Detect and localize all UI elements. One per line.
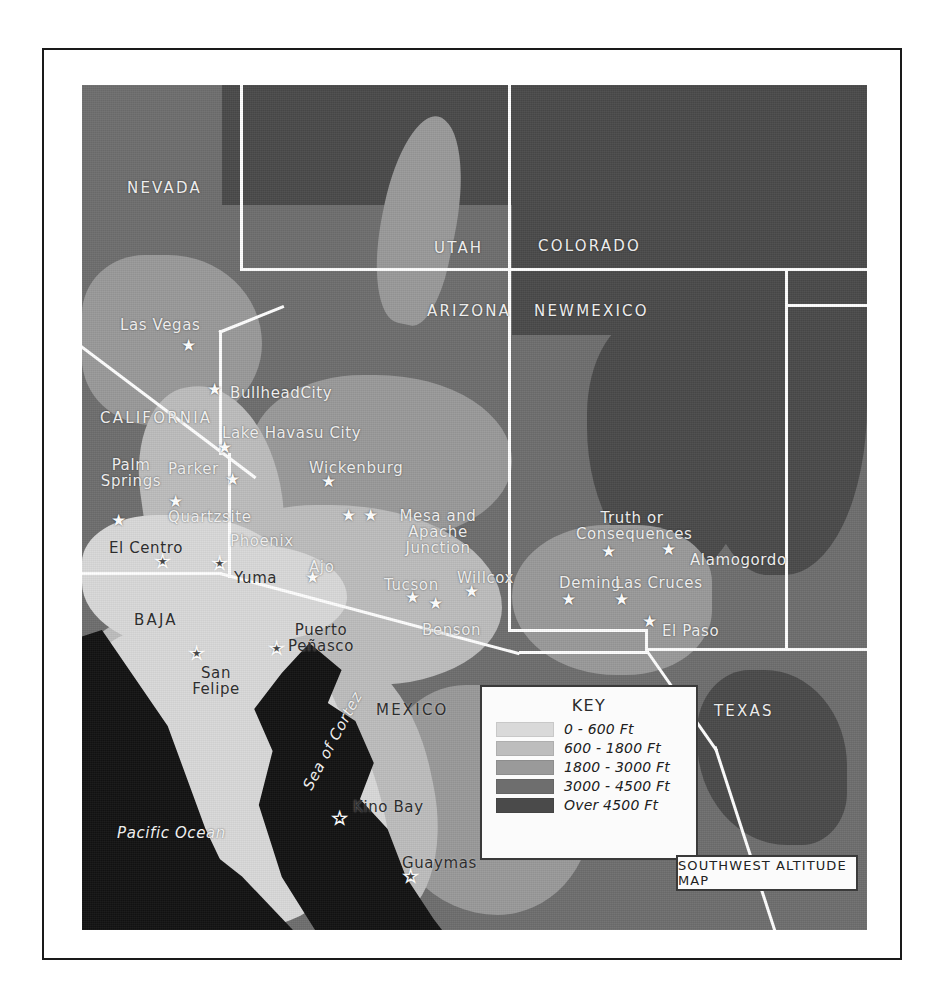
legend-row: Over 4500 Ft	[496, 797, 696, 813]
border-california-mexico	[82, 572, 222, 575]
map-page: NEVADAUTAHCOLORADOARIZONANEWMEXICOCALIFO…	[0, 0, 946, 1005]
legend-label: 3000 - 4500 Ft	[564, 778, 670, 794]
city-label-puerto-pe-asco: Puerto Peñasco	[282, 622, 360, 654]
city-label-phoenix: Phoenix	[230, 533, 294, 549]
city-label-alamogordo: Alamogordo	[690, 552, 787, 568]
legend-swatch	[496, 798, 554, 813]
water-label-pacific-ocean: Pacific Ocean	[117, 825, 226, 841]
altitude-map-image: NEVADAUTAHCOLORADOARIZONANEWMEXICOCALIFO…	[82, 85, 867, 930]
city-label-parker: Parker	[168, 461, 219, 477]
state-label-texas: TEXAS	[714, 703, 774, 719]
border-utah-arizona	[240, 268, 510, 271]
state-label-mexico: MEXICO	[376, 702, 449, 718]
legend-key-box: KEY 0 - 600 Ft600 - 1800 Ft1800 - 3000 F…	[480, 685, 698, 860]
city-label-el-paso: El Paso	[662, 623, 719, 639]
terrain-highland-utah-north	[222, 85, 522, 205]
state-label-utah: UTAH	[434, 240, 483, 256]
city-label-lake-havasu-city: Lake Havasu City	[222, 425, 361, 441]
state-label-newmexico: NEWMEXICO	[534, 303, 649, 319]
legend-row: 600 - 1800 Ft	[496, 740, 696, 756]
city-label-mesa-and-apache-junction: Mesa and Apache Junction	[382, 508, 494, 557]
map-title-text: SOUTHWEST ALTITUDE MAP	[678, 858, 856, 888]
map-title-box: SOUTHWEST ALTITUDE MAP	[676, 855, 858, 891]
legend-label: 0 - 600 Ft	[564, 721, 634, 737]
state-label-baja: BAJA	[134, 612, 178, 628]
city-label-san-felipe: San Felipe	[177, 665, 255, 697]
legend-swatch	[496, 722, 554, 737]
city-label-quartzsite: Quartzsite	[168, 509, 252, 525]
legend-heading: KEY	[482, 687, 696, 721]
border-newmexico-mexico	[645, 648, 867, 651]
state-label-california: CALIFORNIA	[100, 410, 212, 426]
city-label-benson: Benson	[422, 622, 481, 638]
legend-row: 1800 - 3000 Ft	[496, 759, 696, 775]
legend-swatch	[496, 741, 554, 756]
city-label-kino-bay: Kino Bay	[353, 799, 424, 815]
legend-rows: 0 - 600 Ft600 - 1800 Ft1800 - 3000 Ft300…	[482, 721, 696, 813]
legend-swatch	[496, 779, 554, 794]
city-label-yuma: Yuma	[234, 570, 277, 586]
border-utah-colorado	[508, 85, 511, 269]
state-label-nevada: NEVADA	[127, 180, 202, 196]
legend-row: 0 - 600 Ft	[496, 721, 696, 737]
border-colorado-newmexico	[508, 268, 867, 271]
state-label-colorado: COLORADO	[538, 238, 641, 254]
legend-row: 3000 - 4500 Ft	[496, 778, 696, 794]
border-nevada-utah	[240, 85, 243, 271]
legend-label: 1800 - 3000 Ft	[564, 759, 670, 775]
border-texas-newmexico-east	[785, 304, 788, 649]
city-label-bullheadcity: BullheadCity	[230, 385, 332, 401]
legend-label: 600 - 1800 Ft	[564, 740, 661, 756]
border-newmexico-texas-north	[508, 629, 648, 632]
city-label-el-centro: El Centro	[109, 540, 183, 556]
city-label-palm-springs: Palm Springs	[92, 457, 170, 489]
legend-label: Over 4500 Ft	[564, 797, 658, 813]
city-label-las-vegas: Las Vegas	[120, 317, 200, 333]
legend-swatch	[496, 760, 554, 775]
city-label-truth-or-consequences: Truth or Consequences	[576, 510, 688, 542]
border-newmexico-east	[785, 268, 788, 306]
border-arizona-mexico-east	[519, 651, 649, 654]
state-label-arizona: ARIZONA	[427, 303, 511, 319]
border-newmexico-east-jog	[785, 304, 867, 307]
